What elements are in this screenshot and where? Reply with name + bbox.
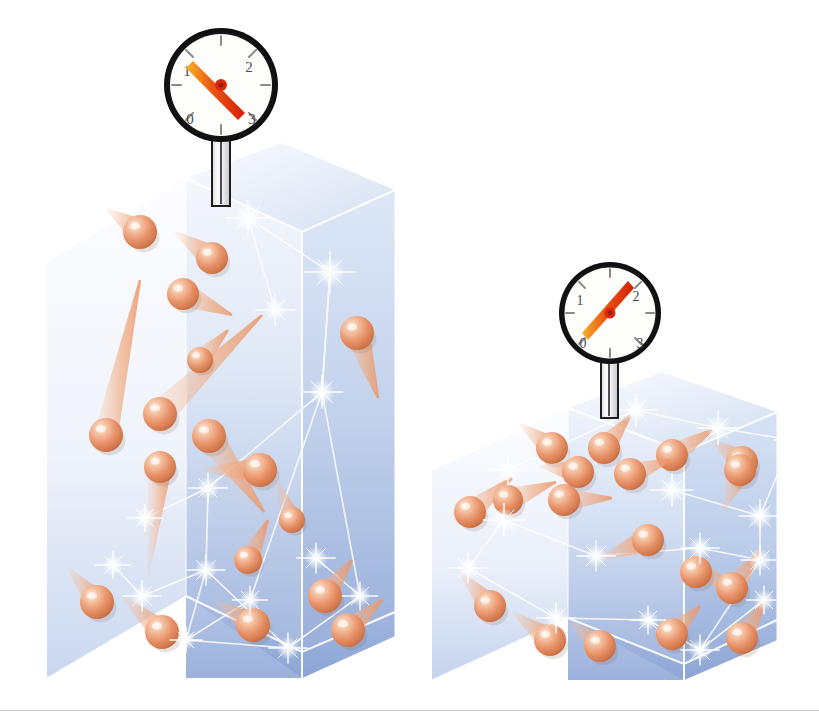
gauge-right-numeral-2: 2 [633,289,640,304]
collision-sparkle-core [314,556,319,561]
gas-particle [196,242,228,274]
gauge-left-numeral-2: 2 [245,59,253,75]
particle-highlight [554,491,564,498]
particle-highlight [662,625,672,632]
gas-particle [536,432,568,464]
particle-highlight [150,458,160,465]
particle-highlight [192,352,200,358]
particle-highlight [130,222,140,229]
particle-highlight [540,631,550,638]
gas-particle [143,397,177,431]
particle-highlight [96,425,106,432]
gas-particle [167,278,199,310]
collision-sparkle-core [111,563,115,567]
gas-particle [89,418,123,452]
collision-sparkle-core [698,648,703,653]
gas-particle [614,458,646,490]
particle-highlight [250,460,260,467]
gas-particle [548,484,580,516]
gas-particle [192,419,226,453]
particle-highlight [722,579,732,586]
collision-sparkle-core [633,407,638,412]
particle-highlight [152,622,162,629]
gas-particle [534,624,566,656]
particle-highlight [730,461,740,468]
collision-sparkle-core [715,425,720,430]
particle-highlight [150,404,160,411]
particle-highlight [347,323,357,330]
gas-particle [584,630,616,662]
gas-particle [331,613,365,647]
collision-sparkle-core [206,486,211,491]
collision-sparkle-core [646,618,650,622]
collision-sparkle-core [758,558,763,563]
collision-sparkle-core [245,215,251,221]
particle-highlight [173,285,183,292]
collision-sparkle-core [286,646,291,651]
illustration-canvas: 0 1 2 3 0 1 [0,0,819,727]
gas-particle [454,496,486,528]
gas-particle [562,456,594,488]
particle-highlight [620,465,630,472]
gas-particle [234,546,262,574]
particle-highlight [732,629,742,636]
particle-highlight [499,491,508,498]
collision-sparkle-core [184,638,188,642]
collision-sparkle-core [501,517,506,522]
gas-particle [308,579,342,613]
collision-sparkle-core [757,513,762,518]
gauge-stem-left [212,138,230,206]
footer-divider [0,710,819,711]
particle-highlight [568,463,578,470]
collision-sparkle-core [358,594,362,598]
gas-particle [724,454,756,486]
particle-highlight [480,597,490,604]
gauge-left-numeral-3: 3 [248,111,256,127]
gas-particle [340,316,374,350]
gauge-right-numeral-3: 3 [637,336,644,351]
collision-sparkle-core [466,566,471,571]
particle-highlight [638,531,648,538]
gas-particle [236,608,270,642]
collision-sparkle-core [594,554,599,559]
collision-sparkle-core [790,438,794,442]
collision-sparkle-core [319,389,324,394]
particle-highlight [199,426,209,433]
gas-particle [726,622,758,654]
particle-highlight [243,615,253,622]
pressure-gauge-left[interactable]: 0 1 2 3 [164,28,278,142]
particle-highlight [594,439,604,446]
gas-particle [474,590,506,622]
particle-highlight [284,512,292,518]
collision-sparkle-core [327,269,333,275]
collision-sparkle-core [762,598,766,602]
kinetic-theory-scene: 0 1 2 3 0 1 [0,0,819,727]
pressure-gauge-right[interactable]: 0 1 2 3 [559,262,661,364]
gauge-left-numeral-0: 0 [186,111,194,127]
gas-particle [145,615,179,649]
collision-sparkle-core [140,594,145,599]
gas-particle [123,215,157,249]
gauge-right-numeral-0: 0 [580,336,587,351]
gas-particle [716,572,748,604]
gas-particle [144,451,176,483]
particle-highlight [87,592,97,599]
collision-sparkle-core [273,308,278,313]
particle-highlight [686,563,696,570]
gas-particle [656,618,688,650]
gas-particle [680,556,712,588]
gas-particle [279,507,305,533]
collision-sparkle-core [669,487,674,492]
gas-particle [243,453,277,487]
collision-sparkle-core [204,568,209,573]
collision-sparkle-core [698,546,703,551]
particle-highlight [202,249,212,256]
particle-highlight [240,552,248,558]
particle-highlight [590,637,600,644]
particle-highlight [662,446,672,453]
particle-highlight [315,586,325,593]
gas-particle [187,347,213,373]
collision-sparkle-core [248,598,252,602]
gauge-stem-right [601,362,618,418]
particle-highlight [542,439,552,446]
